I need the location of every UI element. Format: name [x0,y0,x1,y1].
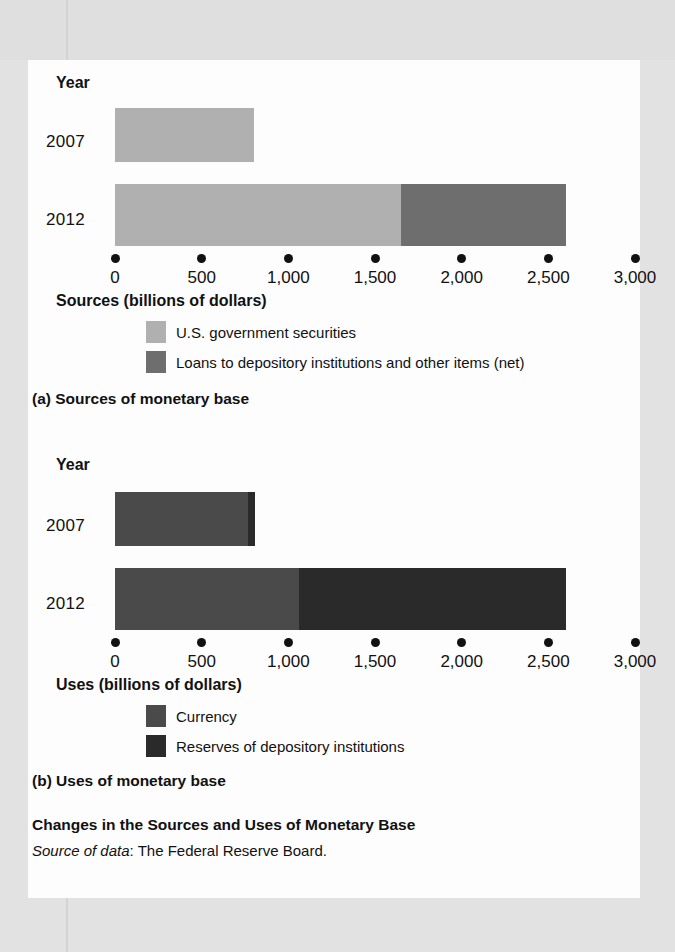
legend-swatch-us-government-securities [146,321,166,343]
panel-a-x-axis: 05001,0001,5002,0002,5003,000 [115,250,635,296]
axis-tick-label: 1,000 [253,268,323,288]
axis-tick-dot [284,638,293,647]
legend-swatch-reserves-of-depository-institutions [146,735,166,757]
axis-tick-dot [457,254,466,263]
panel-a-bar-2012 [115,184,635,246]
axis-tick-label: 3,000 [600,652,670,672]
panel-a-legend-item-securities: U.S. government securities [146,321,356,343]
panel-b-bar-2007-segment-currency [115,492,248,546]
panel-b-bar-2007-segment-reserves [248,492,255,546]
panel-b-bar-2007 [115,492,635,546]
axis-tick-dot [631,254,640,263]
axis-tick-label: 1,500 [340,652,410,672]
panel-b-caption: (b) Uses of monetary base [32,772,226,790]
axis-tick-label: 2,500 [513,268,583,288]
figure-source-text: : The Federal Reserve Board. [130,842,327,859]
legend-label-us-government-securities: U.S. government securities [176,324,356,341]
axis-tick-dot [631,638,640,647]
panel-b-legend-item-currency: Currency [146,705,237,727]
figure-card: Year 2007 2012 05001,0001,5002,0002,5003… [28,60,640,898]
panel-b-legend-item-reserves: Reserves of depository institutions [146,735,404,757]
axis-tick-dot [111,638,120,647]
panel-b-x-axis: 05001,0001,5002,0002,5003,000 [115,634,635,680]
legend-label-currency: Currency [176,708,237,725]
legend-swatch-loans-to-depository-institutions [146,351,166,373]
panel-a-category-2012: 2012 [46,210,85,230]
axis-tick-dot [371,638,380,647]
legend-swatch-currency [146,705,166,727]
panel-a-year-header: Year [56,74,90,92]
axis-tick-dot [284,254,293,263]
axis-tick-dot [197,638,206,647]
panel-b-axis-title: Uses (billions of dollars) [56,676,242,694]
axis-tick-dot [197,254,206,263]
axis-tick-dot [111,254,120,263]
axis-tick-label: 3,000 [600,268,670,288]
panel-b-year-header: Year [56,456,90,474]
background-band-top [0,0,675,60]
panel-b-bar-2012-segment-reserves [299,568,566,630]
panel-a-category-2007: 2007 [46,132,85,152]
panel-b-category-2007: 2007 [46,516,85,536]
panel-a-caption: (a) Sources of monetary base [32,390,249,408]
panel-b-category-2012: 2012 [46,594,85,614]
axis-tick-dot [371,254,380,263]
axis-tick-label: 500 [167,268,237,288]
panel-a-legend-item-loans: Loans to depository institutions and oth… [146,351,525,373]
axis-tick-label: 2,000 [427,652,497,672]
panel-a-bar-2012-segment-securities [115,184,401,246]
axis-tick-label: 2,000 [427,268,497,288]
panel-a-bar-2007 [115,108,635,162]
panel-a-bar-2007-segment-securities [115,108,254,162]
legend-label-reserves-of-depository-institutions: Reserves of depository institutions [176,738,404,755]
axis-tick-label: 1,000 [253,652,323,672]
panel-b-bar-2012 [115,568,635,630]
panel-a-bar-2012-segment-loans [401,184,566,246]
figure-title: Changes in the Sources and Uses of Monet… [32,816,415,834]
panel-a-axis-title: Sources (billions of dollars) [56,292,267,310]
axis-tick-dot [544,254,553,263]
panel-b-bar-2012-segment-currency [115,568,299,630]
figure-source: Source of data: The Federal Reserve Boar… [32,842,327,859]
axis-tick-label: 0 [80,268,150,288]
axis-tick-label: 500 [167,652,237,672]
axis-tick-label: 0 [80,652,150,672]
axis-tick-dot [544,638,553,647]
legend-label-loans-to-depository-institutions: Loans to depository institutions and oth… [176,354,525,371]
axis-tick-label: 2,500 [513,652,583,672]
figure-source-prefix: Source of data [32,842,130,859]
axis-tick-label: 1,500 [340,268,410,288]
axis-tick-dot [457,638,466,647]
